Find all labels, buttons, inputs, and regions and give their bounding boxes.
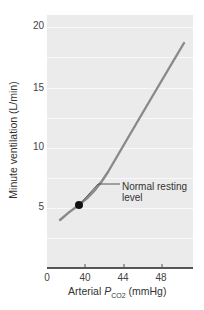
annotation-line1: Normal resting	[122, 181, 202, 192]
normal-resting-annotation: Normal resting level	[122, 181, 202, 203]
annotation-leader-line	[79, 184, 120, 205]
chart-svg	[0, 0, 204, 310]
normal-resting-marker	[75, 201, 83, 209]
annotation-line2: level	[122, 192, 202, 203]
